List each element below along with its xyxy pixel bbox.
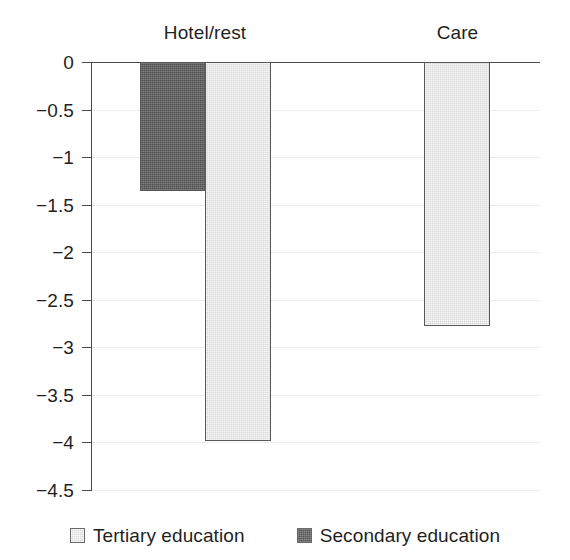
bar-hotel-rest-tertiary[interactable] — [205, 62, 271, 441]
y-axis-spine — [91, 62, 92, 491]
ytick-label-minus-3: −3 — [10, 338, 74, 357]
ytick-label-minus-2: −2 — [10, 243, 74, 262]
chart-legend: Tertiary education Secondary education — [0, 518, 570, 552]
ytick-0 — [82, 62, 91, 63]
bar-hotel-rest-secondary[interactable] — [140, 62, 206, 191]
ytick-minus-2 — [82, 252, 91, 253]
legend-item-secondary[interactable]: Secondary education — [297, 525, 500, 546]
gridline-minus-3 — [91, 347, 540, 348]
gridline-minus-4-5 — [91, 490, 540, 491]
gridline-minus-4 — [91, 442, 540, 443]
ytick-label-minus-0-5: −0.5 — [10, 101, 74, 120]
ytick-minus-3-5 — [82, 395, 91, 396]
plot-area: 0 −0.5 −1 −1.5 −2 −2.5 −3 −3.5 −4 −4.5 — [0, 0, 570, 560]
ytick-label-minus-4: −4 — [10, 433, 74, 452]
ytick-label-minus-1: −1 — [10, 148, 74, 167]
ytick-label-minus-2-5: −2.5 — [10, 291, 74, 310]
ytick-label-minus-3-5: −3.5 — [10, 386, 74, 405]
ytick-minus-1 — [82, 157, 91, 158]
ytick-label-minus-1-5: −1.5 — [10, 196, 74, 215]
ytick-label-minus-4-5: −4.5 — [10, 481, 74, 500]
legend-label-tertiary: Tertiary education — [93, 525, 245, 546]
gridline-minus-3-5 — [91, 395, 540, 396]
legend-item-tertiary[interactable]: Tertiary education — [70, 525, 245, 546]
ytick-minus-4-5 — [82, 490, 91, 491]
ytick-minus-2-5 — [82, 300, 91, 301]
ytick-label-0: 0 — [10, 53, 74, 72]
legend-swatch-secondary-icon — [297, 528, 312, 543]
ytick-minus-4 — [82, 442, 91, 443]
ytick-minus-1-5 — [82, 205, 91, 206]
legend-swatch-tertiary-icon — [70, 528, 85, 543]
bar-care-tertiary[interactable] — [424, 62, 490, 326]
legend-label-secondary: Secondary education — [320, 525, 500, 546]
bar-chart: Hotel/rest Care 0 −0.5 −1 −1.5 −2 — [0, 0, 570, 560]
ytick-minus-3 — [82, 347, 91, 348]
ytick-minus-0-5 — [82, 110, 91, 111]
